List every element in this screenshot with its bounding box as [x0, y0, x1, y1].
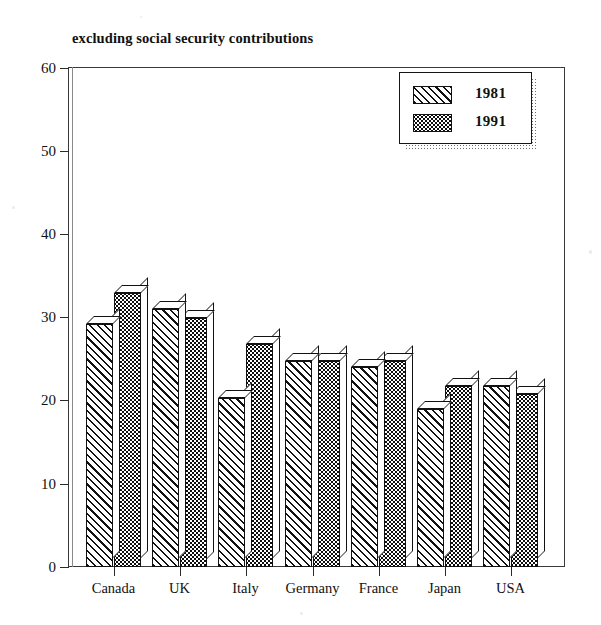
- bar-front-face: [218, 398, 245, 567]
- bar-side-face: [443, 393, 451, 559]
- page-speckle: [140, 16, 142, 18]
- bar-front-face: [86, 324, 113, 567]
- x-tick-label-uk: UK: [169, 580, 190, 597]
- x-tick: [511, 567, 512, 576]
- bar-side-face: [206, 302, 214, 560]
- y-tick-label: 20: [4, 392, 56, 409]
- y-tick-label: 60: [4, 60, 56, 77]
- x-tick: [246, 567, 247, 576]
- bar-front-face: [483, 386, 510, 567]
- legend: 1981 1991: [399, 72, 532, 144]
- page-speckle: [300, 612, 303, 615]
- bar-side-face: [405, 345, 413, 559]
- legend-label-1981: 1981: [475, 85, 506, 102]
- y-axis-inner-line: [72, 67, 73, 567]
- bar-front-face: [417, 409, 444, 567]
- bar-chart: excluding social security contributions …: [0, 0, 601, 625]
- y-tick: [60, 151, 69, 152]
- bar-side-face: [140, 277, 148, 559]
- page-speckle: [12, 206, 15, 209]
- x-tick: [313, 567, 314, 576]
- x-tick-label-italy: Italy: [232, 580, 259, 597]
- y-tick-label: 50: [4, 143, 56, 160]
- bar-side-face: [509, 370, 517, 559]
- x-tick-label-canada: Canada: [92, 580, 135, 597]
- bar-front-face: [152, 309, 179, 567]
- y-tick-label: 10: [4, 476, 56, 493]
- bar-side-face: [537, 378, 545, 559]
- x-tick-label-france: France: [359, 580, 398, 597]
- bar-side-face: [112, 308, 120, 559]
- y-tick: [60, 68, 69, 69]
- bar-side-face: [339, 345, 347, 559]
- y-tick: [60, 234, 69, 235]
- x-tick: [114, 567, 115, 576]
- legend-swatch-1981: [413, 86, 452, 104]
- bar-side-face: [244, 382, 252, 559]
- x-tick: [379, 567, 380, 576]
- legend-swatch-1991: [413, 114, 452, 132]
- bar-side-face: [377, 351, 385, 559]
- legend-label-1991: 1991: [475, 113, 506, 130]
- y-tick-label: 30: [4, 309, 56, 326]
- x-tick-label-japan: Japan: [428, 580, 461, 597]
- y-tick-label: 40: [4, 226, 56, 243]
- x-tick: [180, 567, 181, 576]
- page-speckle: [589, 250, 592, 254]
- y-tick: [60, 400, 69, 401]
- x-tick-label-germany: Germany: [286, 580, 340, 597]
- bar-front-face: [351, 367, 378, 567]
- y-tick: [60, 567, 69, 568]
- y-tick: [60, 484, 69, 485]
- y-tick: [60, 317, 69, 318]
- x-tick-label-usa: USA: [496, 580, 525, 597]
- chart-title: excluding social security contributions: [72, 30, 313, 47]
- bar-side-face: [178, 293, 186, 559]
- x-tick: [445, 567, 446, 576]
- bar-side-face: [311, 345, 319, 559]
- bar-side-face: [471, 370, 479, 559]
- y-tick-label: 0: [4, 559, 56, 576]
- bar-side-face: [272, 328, 280, 559]
- bar-front-face: [285, 361, 312, 567]
